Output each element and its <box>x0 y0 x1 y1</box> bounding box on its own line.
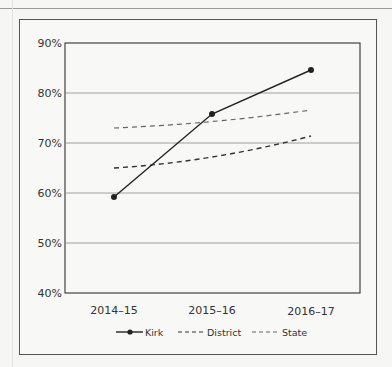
y-label-70: 70% <box>38 137 62 150</box>
y-label-80: 80% <box>38 87 62 100</box>
kirk-point-2014-15 <box>111 194 117 200</box>
y-label-90: 90% <box>38 37 62 50</box>
kirk-point-2015-16 <box>209 111 215 117</box>
plot-area <box>65 43 360 293</box>
y-label-50: 50% <box>38 237 62 250</box>
legend-kirk-marker-icon <box>127 329 132 334</box>
y-label-40: 40% <box>38 287 62 300</box>
kirk-point-2016-17 <box>308 67 314 73</box>
legend-district-label: District <box>207 327 241 338</box>
line-chart: 90% 80% 70% 60% 50% 40% 2014–15 2015–16 … <box>0 0 392 367</box>
series-district-line <box>114 136 311 168</box>
legend: Kirk District State <box>116 327 307 338</box>
x-label-2015-16: 2015–16 <box>188 304 236 317</box>
legend-state-label: State <box>282 327 307 338</box>
y-axis-labels: 90% 80% 70% 60% 50% 40% <box>38 37 62 300</box>
x-label-2014-15: 2014–15 <box>90 304 138 317</box>
legend-kirk-label: Kirk <box>145 327 164 338</box>
series-kirk-line <box>114 70 311 197</box>
x-label-2016-17: 2016–17 <box>287 305 335 318</box>
y-label-60: 60% <box>38 187 62 200</box>
x-axis-labels: 2014–15 2015–16 2016–17 <box>90 304 335 318</box>
